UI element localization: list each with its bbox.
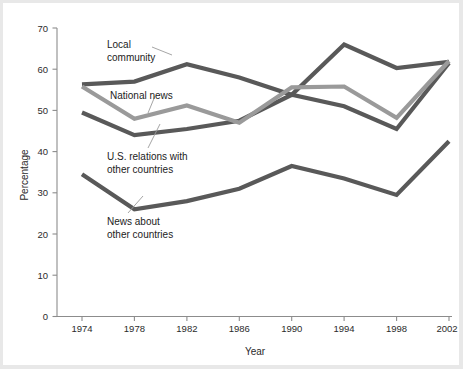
label-national-news: National news	[110, 90, 173, 101]
label-local-community-line2: community	[107, 52, 155, 63]
x-tick-label-1982: 1982	[176, 323, 197, 334]
x-tick-label-1998: 1998	[386, 323, 407, 334]
x-tick-label-1990: 1990	[281, 323, 302, 334]
label-local-community-line1: Local	[107, 39, 131, 50]
y-tick-label-60: 60	[37, 64, 48, 75]
x-axis-ticks	[82, 317, 449, 322]
label-us-relations-line1: U.S. relations with	[107, 151, 188, 162]
x-tick-label-1978: 1978	[124, 323, 145, 334]
y-axis-ticks	[53, 28, 58, 317]
label-news-about-line2: other countries	[107, 229, 173, 240]
line-chart-plot: 70 60 50 40 30 20 10 0 1974 1978 1982 19…	[0, 0, 463, 369]
y-tick-label-20: 20	[37, 229, 48, 240]
y-tick-label-70: 70	[37, 23, 48, 34]
label-news-about-line1: News about	[107, 216, 160, 227]
y-tick-label-10: 10	[37, 270, 48, 281]
x-tick-label-1994: 1994	[334, 323, 355, 334]
x-axis-title: Year	[245, 346, 266, 357]
y-tick-label-30: 30	[37, 187, 48, 198]
y-tick-label-0: 0	[43, 311, 48, 322]
label-us-relations-line2: other countries	[107, 164, 173, 175]
y-axis-title: Percentage	[19, 149, 30, 201]
x-tick-label-1974: 1974	[71, 323, 92, 334]
leader-line-us-relations	[148, 124, 160, 148]
x-tick-label-2002: 2002	[436, 323, 457, 334]
y-tick-label-40: 40	[37, 146, 48, 157]
x-tick-label-1986: 1986	[229, 323, 250, 334]
chart-container: 70 60 50 40 30 20 10 0 1974 1978 1982 19…	[0, 0, 463, 369]
y-tick-label-50: 50	[37, 105, 48, 116]
